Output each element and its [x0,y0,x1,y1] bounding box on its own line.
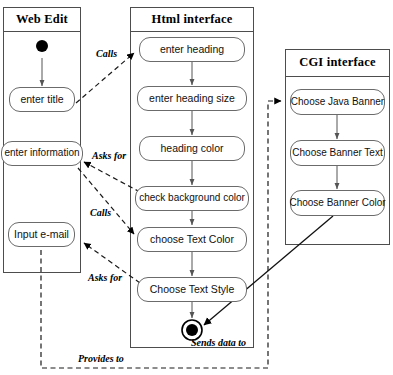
activity-enter-title[interactable]: enter title [9,87,75,112]
activity-choose-banner-color[interactable]: Choose Banner Color [290,190,385,216]
activity-enter-information[interactable]: enter information [1,141,83,166]
activity-enter-heading-size[interactable]: enter heading size [137,86,247,111]
edge-label-sends-data-to-text: Sends data to [191,337,246,348]
edge-label-provides-to-text: Provides to [78,353,124,364]
activity-choose-java-banner-label: Choose Java Banner [291,97,384,108]
edge-label-asks-for-2-text: Asks for [88,272,122,283]
edge-label-calls-1-text: Calls [96,48,117,59]
edge-label-sends-data-to: Sends data to [191,337,246,348]
edge-label-asks-for-1-text: Asks for [92,150,126,161]
activity-enter-heading-size-label: enter heading size [149,93,235,104]
activity-enter-heading[interactable]: enter heading [139,37,245,62]
edge-label-calls-2: Calls [90,207,111,218]
dashed-calls-enter-title-to-enter-heading [76,53,134,103]
activity-enter-title-label: enter title [20,94,63,105]
dashed-calls-enter-information-to-choose-text-color [78,168,134,234]
activity-check-background-color[interactable]: check background color [135,186,249,211]
activity-input-email-label: Input e-mail [14,229,69,240]
activity-choose-text-color-label: choose Text Color [150,234,234,245]
activity-choose-banner-color-label: Choose Banner Color [289,198,385,209]
activity-check-background-color-label: check background color [139,193,245,204]
activity-choose-text-style[interactable]: Choose Text Style [137,277,247,302]
activity-heading-color[interactable]: heading color [139,136,245,161]
edge-label-provides-to: Provides to [78,353,124,364]
activity-choose-banner-text-label: Choose Banner Text [292,148,382,159]
activity-choose-java-banner[interactable]: Choose Java Banner [290,89,385,115]
edge-label-calls-2-text: Calls [90,207,111,218]
activity-choose-banner-text[interactable]: Choose Banner Text [290,140,385,166]
edge-label-calls-1: Calls [96,48,117,59]
edge-label-asks-for-1: Asks for [92,150,126,161]
activity-enter-information-label: enter information [4,148,79,159]
activity-enter-heading-label: enter heading [160,44,224,55]
edge-label-asks-for-2: Asks for [88,272,122,283]
activity-choose-text-style-label: Choose Text Style [150,284,234,295]
activity-diagram: Web Edit Html interface CGI interface [0,0,393,375]
activity-input-email[interactable]: Input e-mail [8,222,75,247]
initial-state-node [36,40,48,52]
dashed-asks-for-check-background-to-enter-information [84,162,140,192]
activity-choose-text-color[interactable]: choose Text Color [137,227,247,252]
activity-heading-color-label: heading color [160,143,223,154]
